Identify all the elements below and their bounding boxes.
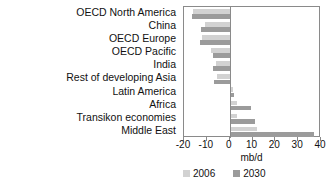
category-label: Transikon economies bbox=[0, 111, 180, 124]
bar-group bbox=[184, 73, 319, 86]
bar-group bbox=[184, 7, 319, 20]
bar-2030 bbox=[230, 119, 255, 124]
bar-group bbox=[184, 59, 319, 72]
category-axis-labels: OECD North AmericaChinaOECD EuropeOECD P… bbox=[0, 6, 180, 137]
bar-2030 bbox=[213, 53, 230, 58]
category-label: Middle East bbox=[0, 124, 180, 137]
bar-2006 bbox=[217, 74, 230, 79]
bar-group bbox=[184, 46, 319, 59]
plot-area bbox=[183, 6, 320, 137]
legend-swatch-2006 bbox=[183, 170, 190, 177]
bar-2030 bbox=[230, 106, 252, 111]
x-axis-tick-labels: -20-10010203040 bbox=[0, 139, 330, 153]
category-label: OECD Europe bbox=[0, 32, 180, 45]
chart-legend: 2006 2030 bbox=[183, 168, 330, 179]
x-tick-label: 40 bbox=[305, 139, 330, 150]
bar-2006 bbox=[205, 22, 230, 27]
legend-swatch-2030 bbox=[233, 170, 240, 177]
bar-group bbox=[184, 86, 319, 99]
category-label: OECD Pacific bbox=[0, 45, 180, 58]
bar-2006 bbox=[230, 114, 237, 119]
bar-2030 bbox=[213, 66, 230, 71]
bar-2006 bbox=[211, 48, 229, 53]
category-label: Latin America bbox=[0, 85, 180, 98]
bar-group bbox=[184, 33, 319, 46]
legend-item-2006: 2006 bbox=[183, 168, 215, 179]
bar-2006 bbox=[202, 35, 229, 40]
zero-line bbox=[230, 7, 231, 138]
bar-group bbox=[184, 20, 319, 33]
bar-2030 bbox=[214, 80, 230, 85]
legend-label-2030: 2030 bbox=[243, 168, 265, 179]
category-label: India bbox=[0, 58, 180, 71]
bar-2030 bbox=[201, 27, 230, 32]
bar-2030 bbox=[230, 132, 314, 137]
bar-2006 bbox=[193, 9, 230, 14]
category-label: OECD North America bbox=[0, 6, 180, 19]
category-label: Africa bbox=[0, 98, 180, 111]
category-label: Rest of developing Asia bbox=[0, 71, 180, 84]
bar-chart: OECD North AmericaChinaOECD EuropeOECD P… bbox=[0, 0, 330, 186]
bar-2030 bbox=[192, 14, 230, 19]
legend-label-2006: 2006 bbox=[193, 168, 215, 179]
bar-2006 bbox=[230, 101, 237, 106]
bar-2030 bbox=[200, 40, 230, 45]
bar-group bbox=[184, 99, 319, 112]
x-axis-title: mb/d bbox=[183, 152, 320, 163]
bar-2006 bbox=[230, 127, 257, 132]
bars-container bbox=[184, 7, 319, 136]
legend-item-2030: 2030 bbox=[233, 168, 265, 179]
category-label: China bbox=[0, 19, 180, 32]
bar-group bbox=[184, 112, 319, 125]
bar-2006 bbox=[216, 61, 230, 66]
